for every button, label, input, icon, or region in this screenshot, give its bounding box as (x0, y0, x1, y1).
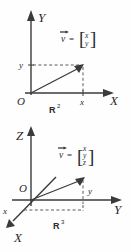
equals-sign-2d: = (69, 34, 74, 44)
space-label-text-2d: R (49, 105, 56, 115)
space-label-text-3d: R (53, 221, 60, 231)
space-label-r3: R 3 (53, 219, 65, 231)
x-axis-label-3d: X (13, 230, 23, 245)
y-axis-3d (12, 196, 122, 204)
y-axis-arrowhead-2d (27, 10, 35, 21)
vector-component-y-2d: y (84, 39, 89, 48)
y-coordinate-label-3d: y (87, 186, 92, 196)
z-axis-3d (27, 126, 35, 206)
y-axis-label-3d: Y (114, 202, 123, 217)
space-label-r2: R 2 (49, 103, 61, 115)
vector-symbol-3d: v (59, 150, 64, 160)
vector-equation-3d: v = [ x y z ] (58, 144, 94, 167)
y-axis-label-2d: Y (38, 10, 47, 25)
vector-arrow-2d (31, 64, 84, 93)
x-axis-label-2d: X (109, 93, 119, 108)
vector-symbol-2d: v (61, 34, 66, 44)
vector-equation-2d: v = [ x y ] (60, 28, 96, 49)
vector-representation-figure: Y X O y x R 2 v = [ x y ] (0, 0, 130, 252)
vector-arrow-3d (31, 177, 85, 200)
x-axis-2d (25, 89, 114, 97)
two-dimensional-vector-diagram: Y X O y x R 2 v = [ x y ] (0, 0, 130, 126)
z-axis-arrowhead-3d (27, 126, 35, 136)
x-coordinate-label-3d: x (2, 206, 7, 216)
z-axis-label-3d: Z (16, 128, 24, 143)
vector-component-z-3d: z (82, 158, 86, 167)
y-axis-2d (27, 10, 35, 95)
three-dimensional-vector-diagram: Z Y X O y x R 3 v = [ x y z ] (0, 126, 130, 252)
bracket-close-3d: ] (88, 146, 94, 167)
equals-sign-3d: = (67, 150, 72, 160)
origin-label-2d: O (17, 95, 25, 107)
space-exponent-3d: 3 (61, 219, 65, 225)
space-exponent-2d: 2 (57, 103, 61, 109)
plot-3d-svg: Z Y X O y x R 3 v = [ x y z ] (0, 126, 130, 252)
y-coordinate-label-2d: y (18, 60, 23, 70)
plot-2d-svg: Y X O y x R 2 v = [ x y ] (0, 0, 130, 126)
x-coordinate-label-2d: x (79, 97, 84, 107)
bracket-close-2d: ] (90, 28, 96, 49)
origin-label-3d: O (19, 182, 27, 194)
